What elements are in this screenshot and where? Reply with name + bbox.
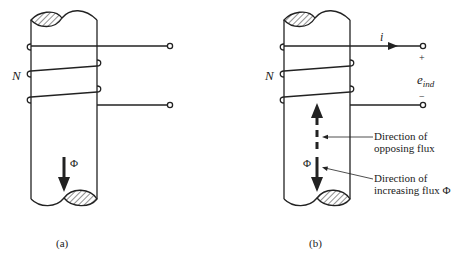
terminal-bottom-b <box>420 102 425 107</box>
opposing-flux-text-1: Direction of <box>374 130 428 142</box>
flux-label-b: Φ <box>303 157 311 169</box>
figure-a <box>27 11 172 206</box>
current-label: i <box>380 30 383 44</box>
flux-arrow-a <box>58 157 70 192</box>
emf-label-sub: ind <box>423 79 435 89</box>
caption-a: (a) <box>56 237 69 250</box>
increasing-flux-arrow-b <box>311 157 323 192</box>
minus-label: − <box>419 91 425 102</box>
emf-label: eind <box>417 72 435 89</box>
leader-opposing <box>322 135 373 139</box>
flux-label-a: Φ <box>70 157 78 169</box>
turns-label-b: N <box>264 68 275 83</box>
plus-label: + <box>419 52 425 63</box>
terminal-bottom-a <box>167 102 172 107</box>
core-top-section-b <box>284 12 315 26</box>
terminal-top-b <box>420 43 425 48</box>
increasing-flux-text-2: increasing flux Φ <box>374 184 450 196</box>
opposing-flux-text-2: opposing flux <box>374 142 435 154</box>
opposing-flux-arrow-b <box>311 103 323 150</box>
leader-increasing <box>322 167 373 180</box>
core-top-section-a <box>31 12 62 26</box>
increasing-flux-text-1: Direction of <box>374 172 428 184</box>
turns-label-a: N <box>11 68 22 83</box>
core-bottom-section-a <box>64 190 97 205</box>
terminal-top-a <box>167 43 172 48</box>
caption-b: (b) <box>309 237 322 250</box>
current-arrow-icon <box>388 42 398 50</box>
core-bottom-section-b <box>317 190 350 205</box>
faraday-induction-diagram: N Φ (a) <box>0 0 465 262</box>
